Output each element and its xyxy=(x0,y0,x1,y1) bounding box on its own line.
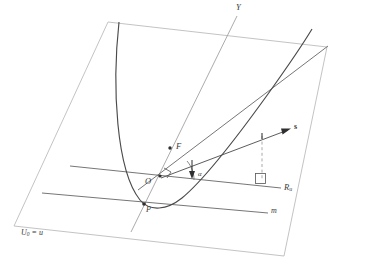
figure-root: Y F O P s Ru m U0= u α xyxy=(0,0,382,270)
plane-label-rest: = u xyxy=(32,228,43,237)
ray-ru xyxy=(70,166,281,188)
y-axis-label: Y xyxy=(236,3,241,12)
vector-s-label: s xyxy=(294,123,297,131)
plane-label: U0= u xyxy=(21,229,43,238)
vertex-label: P xyxy=(146,206,151,214)
plane-label-subscript: 0 xyxy=(27,231,30,237)
ray-ru-label: Ru xyxy=(284,183,292,193)
ray-ru-subscript: u xyxy=(289,186,292,192)
vector-s-shaft xyxy=(161,130,288,178)
angle-alpha-label: α xyxy=(198,171,202,178)
focus-label: F xyxy=(176,142,181,151)
origin-label: O xyxy=(145,177,151,186)
line-m xyxy=(42,193,268,213)
figure-canvas xyxy=(0,0,382,270)
angle-alpha-arc xyxy=(187,161,194,180)
y-axis-line xyxy=(131,16,237,232)
right-angle-marker xyxy=(256,174,266,184)
plane-parallelogram xyxy=(14,22,327,256)
focus-point xyxy=(168,146,171,149)
origin-point xyxy=(158,174,161,177)
vector-s-arrowhead xyxy=(281,129,291,135)
line-m-label: m xyxy=(271,207,277,215)
chord-line xyxy=(138,46,328,190)
